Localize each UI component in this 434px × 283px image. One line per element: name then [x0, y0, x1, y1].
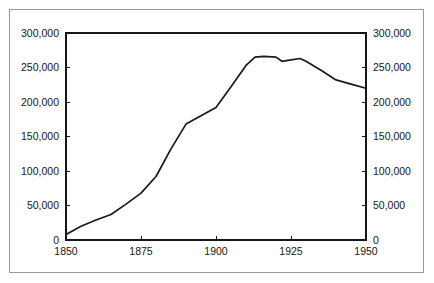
y-axis-right-tick-label: 0 — [373, 234, 379, 246]
y-axis-left-tick-label: 250,000 — [21, 61, 59, 73]
x-axis-tick-label: 1950 — [354, 245, 378, 257]
y-axis-right-tick-label: 150,000 — [373, 130, 411, 142]
x-axis-tick-label: 1850 — [54, 245, 78, 257]
data-series-line — [66, 56, 366, 234]
data-line — [66, 56, 366, 234]
y-axis-left-tick-label: 200,000 — [21, 96, 59, 108]
chart-figure: 050,000100,000150,000200,000250,000300,0… — [0, 0, 434, 283]
y-axis-left-labels: 050,000100,000150,000200,000250,000300,0… — [21, 27, 59, 246]
x-axis-tick-label: 1925 — [279, 245, 303, 257]
y-axis-left-tick-label: 50,000 — [27, 199, 59, 211]
y-axis-left-tick-label: 150,000 — [21, 130, 59, 142]
y-axis-right-tick-label: 300,000 — [373, 27, 411, 39]
y-axis-right-labels: 050,000100,000150,000200,000250,000300,0… — [373, 27, 411, 246]
x-axis-tick-label: 1875 — [129, 245, 153, 257]
y-axis-right-tick-label: 100,000 — [373, 165, 411, 177]
y-axis-right-tick-label: 200,000 — [373, 96, 411, 108]
x-axis-labels: 18501875190019251950 — [54, 245, 378, 257]
line-chart: 050,000100,000150,000200,000250,000300,0… — [0, 0, 434, 283]
y-axis-left-tick-label: 100,000 — [21, 165, 59, 177]
x-axis-tick-label: 1900 — [204, 245, 228, 257]
y-axis-left-tick-label: 300,000 — [21, 27, 59, 39]
axis-frame — [66, 33, 366, 240]
y-axis-left-tick-label: 0 — [53, 234, 59, 246]
y-axis-right-tick-label: 250,000 — [373, 61, 411, 73]
y-axis-right-tick-label: 50,000 — [373, 199, 405, 211]
